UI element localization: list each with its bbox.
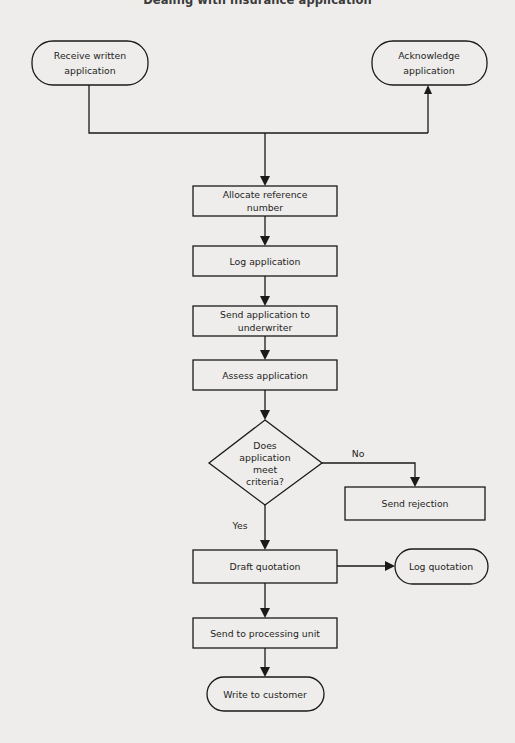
- node-label-acknowledge-line2: application: [403, 65, 454, 76]
- rounded-rectangle-shape: [32, 41, 148, 85]
- node-label-allocate-line1: Allocate reference: [223, 189, 308, 200]
- node-send-to-processing-unit[interactable]: Send to processing unit: [193, 618, 337, 648]
- node-label-assess: Assess application: [222, 370, 308, 381]
- node-label-receive-line2: application: [64, 65, 115, 76]
- connector-decision-no-to-send-rejection: [322, 463, 420, 487]
- arrow-head-icon: [260, 608, 270, 618]
- arrow-head-icon: [260, 296, 270, 306]
- edge-label-yes: Yes: [231, 520, 247, 531]
- connector-draft-quotation-to-send-processing: [260, 583, 270, 618]
- node-label-acknowledge-line1: Acknowledge: [398, 50, 460, 61]
- node-decision-meets-criteria[interactable]: Does application meet criteria?: [209, 420, 322, 505]
- arrow-head-icon: [260, 236, 270, 246]
- node-allocate-reference-number[interactable]: Allocate reference number: [193, 186, 337, 216]
- node-log-application[interactable]: Log application: [193, 246, 337, 276]
- node-label-send-underwriter-line2: underwriter: [238, 322, 293, 333]
- node-label-decision-line2: application: [239, 452, 290, 463]
- node-label-write-customer: Write to customer: [223, 689, 307, 700]
- connector-junction-to-acknowledge: [424, 85, 432, 133]
- connector-receive-to-junction: [89, 85, 428, 133]
- flowchart-svg: Receive written application Acknowledge …: [0, 0, 515, 743]
- node-assess-application[interactable]: Assess application: [193, 360, 337, 390]
- connector-log-application-to-send-underwriter: [260, 276, 270, 306]
- arrow-head-icon: [424, 85, 432, 94]
- node-label-allocate-line2: number: [247, 202, 283, 213]
- node-label-decision-line3: meet: [253, 464, 277, 475]
- node-label-send-rejection: Send rejection: [382, 498, 449, 509]
- node-receive-written-application[interactable]: Receive written application: [32, 41, 148, 85]
- node-draft-quotation[interactable]: Draft quotation: [193, 550, 337, 583]
- arrow-head-icon: [260, 667, 270, 677]
- arrow-head-icon: [260, 350, 270, 360]
- connector-allocate-to-log-application: [260, 216, 270, 246]
- node-acknowledge-application[interactable]: Acknowledge application: [372, 41, 487, 85]
- node-label-decision-line1: Does: [253, 440, 277, 451]
- arrow-head-icon: [410, 477, 420, 487]
- node-write-to-customer[interactable]: Write to customer: [207, 677, 324, 711]
- arrow-head-icon: [385, 561, 395, 571]
- node-send-rejection[interactable]: Send rejection: [345, 487, 485, 520]
- connector-send-underwriter-to-assess: [260, 336, 270, 360]
- arrow-head-icon: [260, 410, 270, 420]
- node-send-application-to-underwriter[interactable]: Send application to underwriter: [193, 306, 337, 336]
- connector-send-processing-to-write-customer: [260, 648, 270, 677]
- edge-label-no: No: [352, 448, 365, 459]
- node-label-log-application: Log application: [230, 256, 301, 267]
- connector-draft-quotation-to-log-quotation: [337, 561, 395, 571]
- flowchart-canvas: Dealing with insurance application: [0, 0, 515, 743]
- node-log-quotation[interactable]: Log quotation: [395, 549, 488, 584]
- connector-assess-to-decision: [260, 390, 270, 420]
- arrow-head-icon: [260, 176, 270, 186]
- node-label-decision-line4: criteria?: [246, 476, 284, 487]
- node-label-draft-quotation: Draft quotation: [229, 561, 300, 572]
- diamond-shape: [209, 420, 322, 505]
- node-label-send-underwriter-line1: Send application to: [220, 309, 310, 320]
- arrow-head-icon: [260, 540, 270, 550]
- node-label-receive-line1: Receive written: [54, 50, 126, 61]
- node-label-send-processing: Send to processing unit: [210, 628, 320, 639]
- rounded-rectangle-shape: [372, 41, 487, 85]
- connector-junction-to-allocate: [260, 133, 270, 186]
- connector-decision-yes-to-draft-quotation: [260, 505, 270, 550]
- node-label-log-quotation: Log quotation: [409, 561, 473, 572]
